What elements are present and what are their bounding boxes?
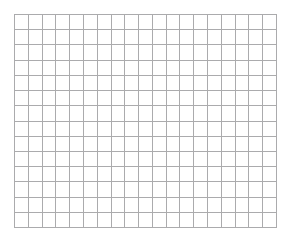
grid-cell[interactable]: [125, 106, 139, 121]
grid-cell[interactable]: [180, 198, 194, 213]
grid-cell[interactable]: [56, 198, 70, 213]
grid-cell[interactable]: [167, 167, 181, 182]
grid-cell[interactable]: [15, 91, 29, 106]
grid-cell[interactable]: [43, 213, 57, 228]
grid-cell[interactable]: [180, 61, 194, 76]
grid-cell[interactable]: [70, 167, 84, 182]
grid-cell[interactable]: [56, 182, 70, 197]
grid-cell[interactable]: [98, 213, 112, 228]
grid-cell[interactable]: [194, 45, 208, 60]
grid-cell[interactable]: [153, 45, 167, 60]
grid-cell[interactable]: [167, 76, 181, 91]
grid-cell[interactable]: [70, 106, 84, 121]
grid-cell[interactable]: [167, 91, 181, 106]
grid-cell[interactable]: [112, 198, 126, 213]
grid-cell[interactable]: [263, 76, 277, 91]
grid-cell[interactable]: [43, 61, 57, 76]
grid-cell[interactable]: [208, 91, 222, 106]
grid-cell[interactable]: [153, 137, 167, 152]
grid-cell[interactable]: [29, 45, 43, 60]
grid-cell[interactable]: [84, 15, 98, 30]
grid-cell[interactable]: [84, 167, 98, 182]
grid-cell[interactable]: [194, 213, 208, 228]
grid-cell[interactable]: [56, 45, 70, 60]
grid-cell[interactable]: [98, 182, 112, 197]
grid-cell[interactable]: [249, 15, 263, 30]
grid-cell[interactable]: [43, 167, 57, 182]
grid-cell[interactable]: [56, 106, 70, 121]
grid-cell[interactable]: [222, 198, 236, 213]
grid-cell[interactable]: [139, 61, 153, 76]
grid-cell[interactable]: [98, 61, 112, 76]
grid-cell[interactable]: [84, 45, 98, 60]
grid-cell[interactable]: [84, 213, 98, 228]
grid-cell[interactable]: [98, 45, 112, 60]
grid-cell[interactable]: [125, 61, 139, 76]
grid-cell[interactable]: [208, 61, 222, 76]
grid-cell[interactable]: [43, 15, 57, 30]
grid-cell[interactable]: [263, 106, 277, 121]
grid-cell[interactable]: [208, 106, 222, 121]
grid-cell[interactable]: [263, 152, 277, 167]
grid-cell[interactable]: [194, 61, 208, 76]
grid-cell[interactable]: [222, 137, 236, 152]
grid-cell[interactable]: [249, 182, 263, 197]
grid-cell[interactable]: [15, 167, 29, 182]
grid-cell[interactable]: [194, 15, 208, 30]
grid-cell[interactable]: [263, 213, 277, 228]
grid-cell[interactable]: [222, 122, 236, 137]
grid-cell[interactable]: [125, 122, 139, 137]
grid-cell[interactable]: [125, 198, 139, 213]
grid-cell[interactable]: [153, 152, 167, 167]
grid-cell[interactable]: [29, 182, 43, 197]
grid-cell[interactable]: [56, 15, 70, 30]
grid-cell[interactable]: [56, 76, 70, 91]
grid-cell[interactable]: [29, 91, 43, 106]
grid-cell[interactable]: [112, 15, 126, 30]
grid-cell[interactable]: [222, 182, 236, 197]
grid-cell[interactable]: [98, 122, 112, 137]
grid-cell[interactable]: [208, 152, 222, 167]
grid-cell[interactable]: [153, 182, 167, 197]
grid-cell[interactable]: [180, 167, 194, 182]
grid-cell[interactable]: [112, 213, 126, 228]
grid-cell[interactable]: [194, 76, 208, 91]
grid-cell[interactable]: [263, 61, 277, 76]
grid-cell[interactable]: [222, 30, 236, 45]
grid-cell[interactable]: [249, 152, 263, 167]
grid-cell[interactable]: [139, 137, 153, 152]
grid-cell[interactable]: [208, 122, 222, 137]
grid-cell[interactable]: [263, 198, 277, 213]
grid-cell[interactable]: [29, 213, 43, 228]
grid-cell[interactable]: [29, 152, 43, 167]
grid-cell[interactable]: [153, 213, 167, 228]
grid-cell[interactable]: [139, 91, 153, 106]
grid-cell[interactable]: [222, 76, 236, 91]
grid-cell[interactable]: [29, 137, 43, 152]
grid-cell[interactable]: [139, 152, 153, 167]
grid-cell[interactable]: [180, 15, 194, 30]
grid-cell[interactable]: [29, 15, 43, 30]
grid-cell[interactable]: [153, 61, 167, 76]
grid-cell[interactable]: [263, 91, 277, 106]
grid-cell[interactable]: [15, 15, 29, 30]
grid-cell[interactable]: [167, 182, 181, 197]
grid-cell[interactable]: [194, 122, 208, 137]
grid-cell[interactable]: [43, 30, 57, 45]
grid-cell[interactable]: [98, 106, 112, 121]
grid-cell[interactable]: [15, 106, 29, 121]
grid-cell[interactable]: [56, 30, 70, 45]
grid-cell[interactable]: [153, 167, 167, 182]
grid-cell[interactable]: [84, 61, 98, 76]
grid-cell[interactable]: [153, 106, 167, 121]
grid-cell[interactable]: [153, 76, 167, 91]
grid-cell[interactable]: [43, 137, 57, 152]
grid-cell[interactable]: [43, 76, 57, 91]
grid-cell[interactable]: [56, 152, 70, 167]
grid-cell[interactable]: [98, 152, 112, 167]
grid-cell[interactable]: [70, 152, 84, 167]
grid-cell[interactable]: [70, 122, 84, 137]
grid-cell[interactable]: [15, 137, 29, 152]
grid-cell[interactable]: [70, 198, 84, 213]
grid-cell[interactable]: [43, 91, 57, 106]
